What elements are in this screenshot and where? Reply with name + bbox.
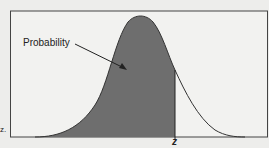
z-axis-label: z bbox=[172, 136, 177, 147]
probability-label: Probability bbox=[23, 37, 70, 48]
edge-fragment-label: z. bbox=[0, 125, 6, 134]
normal-curve-diagram bbox=[0, 0, 269, 148]
